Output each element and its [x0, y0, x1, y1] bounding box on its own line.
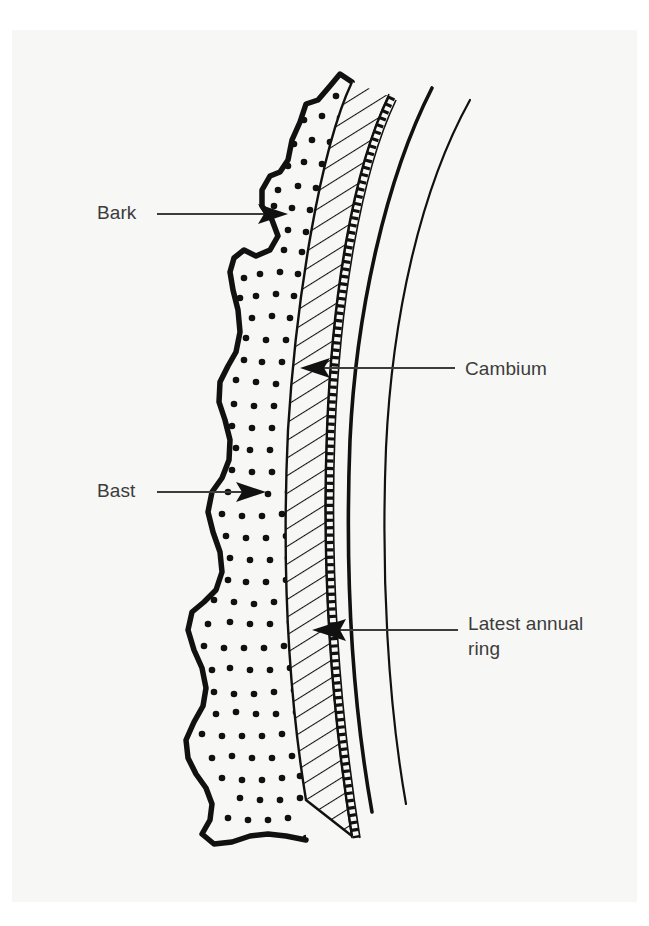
label-bast: Bast [97, 478, 135, 503]
sapwood-outer-line [384, 100, 470, 804]
bark-cross-section-diagram [0, 0, 649, 926]
annual-ring-layer [348, 88, 470, 812]
label-latest-annual-ring: Latest annual ring [468, 611, 583, 661]
page-background: Bark Bast Cambium Latest annual ring [0, 0, 649, 926]
cambium-leader [300, 358, 455, 378]
label-cambium: Cambium [465, 356, 547, 381]
label-bark: Bark [97, 200, 136, 225]
